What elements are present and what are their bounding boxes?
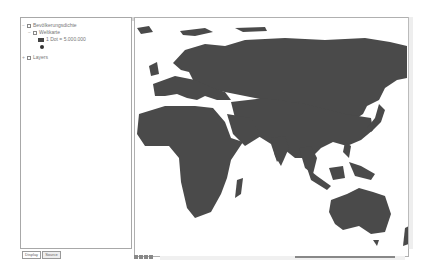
collapse-icon[interactable]: −: [22, 22, 26, 29]
map-vertical-scrollbar[interactable]: [408, 17, 413, 249]
world-map: [135, 18, 409, 257]
tab-display[interactable]: Display: [22, 251, 41, 259]
refresh-button[interactable]: [144, 255, 148, 259]
legend-label: 1 Dot = 5.000.000: [46, 36, 86, 43]
dot-density-swatch-icon: [38, 38, 44, 42]
pause-drawing-button[interactable]: [149, 255, 153, 259]
tab-source[interactable]: Source: [42, 251, 61, 259]
tree-item-weltkarte[interactable]: − Weltkarte: [22, 29, 86, 36]
collapse-icon[interactable]: −: [28, 29, 32, 36]
legend-dot-density: 1 Dot = 5.000.000: [22, 36, 86, 43]
layer-tree: − Bevölkerungsdichte − Weltkarte 1 Dot =…: [22, 22, 86, 61]
layer-label: Weltkarte: [39, 29, 60, 36]
visibility-checkbox[interactable]: [33, 31, 37, 35]
legend-point: [22, 43, 86, 50]
data-frame-label: Bevölkerungsdichte: [33, 22, 77, 29]
map-horizontal-scrollbar[interactable]: [160, 256, 405, 260]
view-toggle-buttons: [134, 255, 153, 259]
toc-tabs: Display Source: [22, 251, 61, 259]
tree-item-layers[interactable]: + Layers: [22, 54, 86, 61]
data-view-button[interactable]: [134, 255, 138, 259]
scrollbar-thumb[interactable]: [295, 256, 395, 258]
tree-item-bevoelkerungsdichte[interactable]: − Bevölkerungsdichte: [22, 22, 86, 29]
visibility-checkbox[interactable]: [27, 56, 31, 60]
expand-icon[interactable]: +: [22, 54, 26, 61]
visibility-checkbox[interactable]: [27, 24, 31, 28]
layout-view-button[interactable]: [139, 255, 143, 259]
map-view[interactable]: [134, 17, 409, 257]
point-symbol-icon: [40, 45, 44, 49]
layers-label: Layers: [33, 54, 48, 61]
